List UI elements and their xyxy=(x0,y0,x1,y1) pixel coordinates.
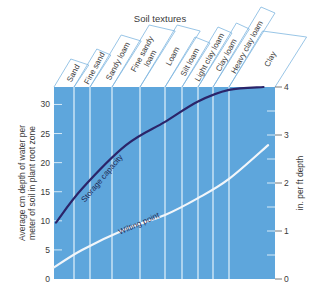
svg-text:20: 20 xyxy=(41,158,51,168)
svg-text:3: 3 xyxy=(284,130,289,140)
texture-label: Sand xyxy=(65,63,82,84)
svg-text:5: 5 xyxy=(45,245,50,255)
soil-water-chart: Soil textures SandFine sandSandy loamFin… xyxy=(0,0,315,299)
svg-text:4: 4 xyxy=(284,82,289,92)
svg-text:0: 0 xyxy=(284,274,289,284)
svg-text:1: 1 xyxy=(284,226,289,236)
svg-text:Clay: Clay xyxy=(263,50,278,68)
svg-text:0: 0 xyxy=(45,274,50,284)
texture-label: Clay xyxy=(263,50,278,68)
chart-title: Soil textures xyxy=(134,13,187,24)
svg-text:Sand: Sand xyxy=(65,63,82,84)
svg-text:Average cm depth of water per: Average cm depth of water per xyxy=(17,125,27,241)
svg-text:10: 10 xyxy=(41,216,51,226)
svg-text:2: 2 xyxy=(284,178,289,188)
left-axis: 051015202530 xyxy=(41,99,51,284)
y2-axis-label: in. per ft depth xyxy=(295,156,305,211)
y-axis-label: Average cm depth of water permeter of so… xyxy=(17,125,37,241)
svg-text:15: 15 xyxy=(41,187,51,197)
svg-text:30: 30 xyxy=(41,99,51,109)
svg-text:25: 25 xyxy=(41,129,51,139)
svg-text:meter of soil in plant root zo: meter of soil in plant root zone xyxy=(27,126,37,240)
right-axis: 01234 xyxy=(275,82,289,284)
